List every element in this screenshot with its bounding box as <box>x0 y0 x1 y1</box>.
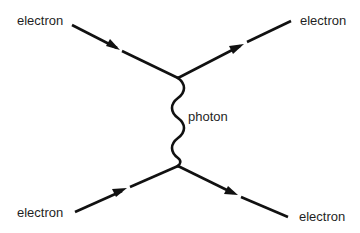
arrowhead-icon <box>106 39 120 50</box>
label-outgoing-top-electron: electron <box>300 13 346 28</box>
electron-line-incoming-bottom <box>75 166 178 212</box>
feynman-diagram: electron electron photon electron electr… <box>0 0 360 233</box>
photon-propagator <box>172 78 184 166</box>
label-photon: photon <box>188 109 228 124</box>
electron-line-outgoing-bottom <box>178 166 288 217</box>
arrowhead-icon <box>229 44 244 54</box>
vertex-bottom <box>177 165 180 168</box>
label-incoming-bottom-electron: electron <box>17 205 63 220</box>
vertex-top <box>177 77 180 80</box>
electron-line-incoming-top <box>72 25 178 78</box>
label-outgoing-bottom-electron: electron <box>299 209 345 224</box>
label-incoming-top-electron: electron <box>17 13 63 28</box>
arrowhead-icon <box>224 186 238 195</box>
electron-line-outgoing-top <box>178 21 291 78</box>
